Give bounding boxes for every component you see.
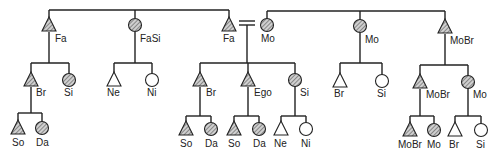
node-label: Ni	[147, 87, 156, 98]
node-da_br: Da	[205, 123, 219, 150]
node-ego: Ego	[241, 72, 272, 98]
node-so_br: So	[179, 121, 193, 149]
node-label: MoBr	[450, 35, 475, 46]
node-label: Br	[334, 88, 345, 99]
node-da_ego: Da	[253, 123, 267, 150]
hatched-triangle-icon	[11, 120, 25, 134]
node-br_3: Br	[448, 122, 462, 150]
node-mobr: MoBr	[438, 19, 475, 46]
node-mobr_2: MoBr	[413, 74, 451, 100]
node-ne_fasi: Ne	[107, 72, 121, 98]
node-label: So	[180, 138, 193, 149]
node-label: Br	[36, 87, 47, 98]
node-label: Si	[64, 87, 73, 98]
hatched-circle-icon	[289, 74, 302, 87]
hatched-circle-icon	[428, 124, 441, 137]
hatched-circle-icon	[36, 122, 49, 135]
node-fa_center: Fa	[222, 17, 236, 44]
node-br_c: Br	[193, 72, 217, 98]
hatched-circle-icon	[129, 19, 142, 32]
node-label: Mo	[427, 139, 441, 150]
node-ni_si: Ni	[300, 123, 313, 150]
open-circle-icon	[475, 124, 488, 137]
node-br_mo: Br	[333, 73, 347, 99]
node-si_mo: Si	[376, 75, 389, 100]
node-mobr_3: MoBr	[398, 122, 423, 150]
kinship-diagram: FaFaSiFaMoMoMoBrBrSiNeNiBrEgoSiBrSiMoBrM…	[0, 0, 489, 167]
node-da_l: Da	[36, 122, 50, 149]
hatched-circle-icon	[205, 123, 218, 136]
hatched-circle-icon	[462, 76, 475, 89]
hatched-triangle-icon	[42, 17, 56, 31]
node-fa_left: Fa	[42, 17, 67, 44]
node-so_l: So	[11, 120, 25, 148]
node-ni_fasi: Ni	[146, 74, 159, 99]
node-label: Si	[300, 87, 309, 98]
node-label: Ni	[301, 138, 310, 149]
node-label: So	[228, 138, 241, 149]
node-ne_si: Ne	[274, 121, 288, 149]
hatched-triangle-icon	[227, 121, 241, 135]
node-so_ego: So	[227, 121, 241, 149]
connector-lines	[18, 10, 481, 124]
node-label: Da	[205, 138, 218, 149]
hatched-circle-icon	[261, 19, 274, 32]
open-circle-icon	[146, 74, 159, 87]
node-si_l: Si	[63, 74, 76, 99]
node-label: Mo	[261, 33, 275, 44]
hatched-triangle-icon	[438, 19, 452, 33]
node-label: Br	[449, 139, 460, 150]
kinship-nodes: FaFaSiFaMoMoMoBrBrSiNeNiBrEgoSiBrSiMoBrM…	[11, 17, 488, 150]
hatched-triangle-icon	[241, 72, 255, 86]
node-label: Fa	[55, 33, 67, 44]
node-mo_center: Mo	[261, 19, 276, 45]
open-circle-icon	[376, 75, 389, 88]
node-label: Da	[36, 137, 49, 148]
hatched-circle-icon	[63, 74, 76, 87]
hatched-triangle-icon	[222, 17, 236, 31]
node-label: Da	[253, 138, 266, 149]
hatched-triangle-icon	[193, 72, 207, 86]
node-label: Mo	[473, 89, 487, 100]
node-mo_3: Mo	[427, 124, 441, 151]
node-label: Ego	[254, 87, 272, 98]
node-label: Si	[476, 139, 485, 150]
node-label: Fa	[223, 33, 235, 44]
node-fasi: FaSi	[129, 19, 161, 45]
node-label: MoBr	[426, 89, 451, 100]
hatched-circle-icon	[253, 123, 266, 136]
node-label: Br	[206, 87, 217, 98]
node-mo_right: Mo	[354, 20, 380, 46]
node-label: Si	[377, 88, 386, 99]
node-si_c: Si	[289, 74, 309, 99]
node-label: So	[12, 137, 25, 148]
open-circle-icon	[300, 123, 313, 136]
node-label: Mo	[365, 34, 379, 45]
hatched-triangle-icon	[24, 72, 38, 86]
hatched-triangle-icon	[179, 121, 193, 135]
open-triangle-icon	[274, 121, 288, 135]
node-label: FaSi	[140, 33, 161, 44]
node-label: Ne	[107, 87, 120, 98]
node-br_l: Br	[24, 72, 47, 98]
node-si_3: Si	[475, 124, 488, 151]
node-mo_2: Mo	[462, 76, 488, 101]
node-label: Ne	[274, 138, 287, 149]
hatched-triangle-icon	[413, 74, 427, 88]
open-triangle-icon	[107, 72, 121, 86]
node-label: MoBr	[398, 139, 423, 150]
hatched-triangle-icon	[403, 122, 417, 136]
open-triangle-icon	[333, 73, 347, 87]
open-triangle-icon	[448, 122, 462, 136]
hatched-circle-icon	[354, 20, 367, 33]
